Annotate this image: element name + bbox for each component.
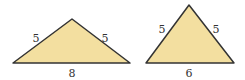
triangle-1-left-side-label: 5 xyxy=(33,32,40,45)
triangle-2-right-side-label: 5 xyxy=(213,23,220,36)
triangle-1-right-side-label: 5 xyxy=(102,32,109,45)
triangle-1-base-label: 8 xyxy=(69,67,76,80)
triangle-2-left-side-label: 5 xyxy=(159,23,166,36)
triangle-2-base-label: 6 xyxy=(186,67,193,80)
triangle-1 xyxy=(13,19,130,63)
triangles-diagram: 5 5 8 5 5 6 xyxy=(0,0,245,80)
